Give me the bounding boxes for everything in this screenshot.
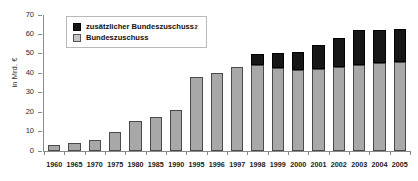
bar-segment-bundeszuschuss (48, 145, 61, 151)
x-axis-tick-mark (308, 151, 309, 155)
bar-segment-bundeszuschuss (150, 117, 163, 151)
bar-group (394, 29, 407, 151)
x-axis-tick-mark (390, 151, 391, 155)
x-axis-tick-label: 1996 (207, 160, 227, 169)
y-axis-tick-mark (38, 34, 42, 35)
y-axis-tick-label: 0 (0, 146, 34, 155)
bar-segment-zusaetzlicher-bundeszuschuss (333, 38, 346, 67)
bar-segment-bundeszuschuss (211, 73, 224, 151)
x-axis-tick-label: 2005 (390, 160, 410, 169)
bar-group (150, 117, 163, 151)
bar-segment-bundeszuschuss (190, 77, 203, 151)
bar-segment-zusaetzlicher-bundeszuschuss (292, 52, 305, 70)
x-axis-tick-mark (166, 151, 167, 155)
bar-group (170, 110, 183, 151)
bar-group (68, 143, 81, 151)
x-axis-tick-label: 2004 (369, 160, 389, 169)
bar-group (211, 73, 224, 151)
x-axis-tick-mark (85, 151, 86, 155)
x-axis-tick-mark (268, 151, 269, 155)
x-axis-tick-mark (207, 151, 208, 155)
x-axis-tick-label: 1965 (64, 160, 84, 169)
x-axis-tick-mark (329, 151, 330, 155)
bar-group (272, 53, 285, 151)
x-axis-tick-label: 1997 (227, 160, 247, 169)
y-axis-tick-label: 30 (0, 87, 34, 96)
legend-footnote-marker: 2 (195, 24, 198, 30)
bar-group (190, 77, 203, 151)
bar-segment-zusaetzlicher-bundeszuschuss (251, 54, 264, 64)
legend-label: zusätzlicher Bundeszuschuss (86, 22, 194, 31)
bar-group (333, 38, 346, 151)
bar-segment-zusaetzlicher-bundeszuschuss (394, 29, 407, 62)
bar-segment-bundeszuschuss (251, 65, 264, 151)
x-axis-tick-mark (44, 151, 45, 155)
legend-swatch-icon (73, 23, 81, 31)
bar-group (373, 30, 386, 151)
y-axis-tick-mark (38, 15, 42, 16)
bar-segment-zusaetzlicher-bundeszuschuss (373, 30, 386, 63)
bar-segment-bundeszuschuss (312, 69, 325, 151)
bar-group (231, 67, 244, 151)
bar-segment-bundeszuschuss (333, 67, 346, 151)
x-axis-tick-label: 1995 (186, 160, 206, 169)
bar-segment-bundeszuschuss (89, 140, 102, 151)
y-axis-tick-mark (38, 73, 42, 74)
bar-group (129, 121, 142, 151)
x-axis-tick-label: 1990 (166, 160, 186, 169)
x-axis-tick-mark (349, 151, 350, 155)
x-axis-tick-mark (369, 151, 370, 155)
bar-segment-zusaetzlicher-bundeszuschuss (272, 53, 285, 69)
y-axis-tick-label: 70 (0, 10, 34, 19)
bar-segment-bundeszuschuss (109, 132, 122, 151)
bar-segment-bundeszuschuss (129, 121, 142, 151)
x-axis-tick-mark (146, 151, 147, 155)
bar-group (251, 54, 264, 151)
x-axis-tick-label: 2000 (288, 160, 308, 169)
y-axis-tick-label: 40 (0, 68, 34, 77)
y-axis-tick-mark (38, 112, 42, 113)
bar-segment-bundeszuschuss (231, 67, 244, 151)
chart-legend: zusätzlicher Bundeszuschuss2Bundeszuschu… (66, 16, 207, 48)
bar-segment-zusaetzlicher-bundeszuschuss (312, 45, 325, 69)
bar-segment-bundeszuschuss (353, 65, 366, 151)
x-axis-tick-label: 1998 (247, 160, 267, 169)
x-axis-tick-label: 1960 (44, 160, 64, 169)
bar-group (292, 52, 305, 151)
legend-item: Bundeszuschuss (73, 32, 198, 43)
x-axis-tick-label: 1999 (268, 160, 288, 169)
bar-segment-bundeszuschuss (394, 62, 407, 151)
x-axis-tick-label: 1985 (146, 160, 166, 169)
x-axis-tick-label: 1980 (125, 160, 145, 169)
x-axis-tick-mark (247, 151, 248, 155)
bar-segment-bundeszuschuss (170, 110, 183, 151)
bar-group (48, 145, 61, 151)
legend-label: Bundeszuschuss (86, 33, 148, 42)
bar-segment-bundeszuschuss (68, 143, 81, 151)
x-axis-tick-mark (186, 151, 187, 155)
y-axis-tick-label: 10 (0, 126, 34, 135)
bar-group (89, 140, 102, 151)
bar-segment-bundeszuschuss (373, 63, 386, 151)
x-axis-tick-label: 1975 (105, 160, 125, 169)
bar-segment-bundeszuschuss (272, 68, 285, 151)
y-axis-tick-mark (38, 151, 42, 152)
bar-group (353, 30, 366, 151)
x-axis-tick-label: 2002 (329, 160, 349, 169)
y-axis-tick-mark (38, 131, 42, 132)
y-axis-tick-label: 50 (0, 48, 34, 57)
bar-group (312, 45, 325, 151)
x-axis-tick-mark (288, 151, 289, 155)
legend-swatch-icon (73, 34, 81, 42)
x-axis-tick-mark (410, 151, 411, 155)
x-axis-tick-mark (227, 151, 228, 155)
x-axis-tick-label: 2003 (349, 160, 369, 169)
bar-group (109, 132, 122, 151)
x-axis-tick-mark (64, 151, 65, 155)
y-axis-tick-mark (38, 92, 42, 93)
x-axis-tick-mark (105, 151, 106, 155)
x-axis-tick-label: 1970 (85, 160, 105, 169)
bar-segment-bundeszuschuss (292, 70, 305, 151)
y-axis-tick-label: 60 (0, 29, 34, 38)
x-axis-tick-mark (125, 151, 126, 155)
